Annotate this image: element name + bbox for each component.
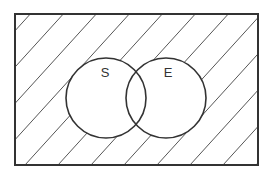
hatch-shading [0, 0, 274, 176]
universe-rectangle [15, 14, 258, 165]
venn-diagram: S E [0, 0, 274, 176]
set-s-label: S [101, 65, 110, 80]
set-e-label: E [164, 65, 173, 80]
